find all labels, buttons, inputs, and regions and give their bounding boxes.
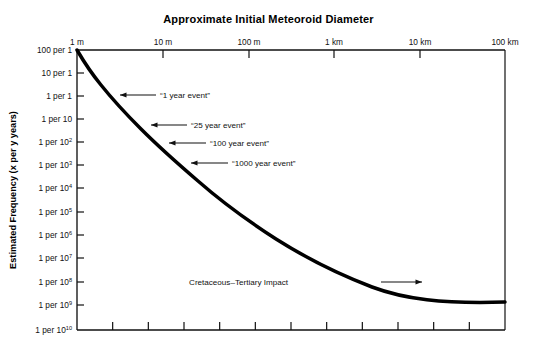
y-tick-label: 1 per 103	[38, 160, 72, 170]
x-tick-label-100-km: 100 km	[491, 37, 518, 47]
y-tick-label: 1 per 109	[38, 300, 72, 310]
axis-frame	[77, 50, 505, 330]
y-tick-label: 100 per 1	[37, 45, 72, 55]
y-tick-label: 1 per 108	[38, 277, 72, 287]
y-tick-label: 1 per 107	[38, 253, 72, 263]
x-axis-ticks: 1 m10 m100 m1 km10 km100 km	[70, 37, 519, 58]
annotation-label: “1000 year event”	[232, 159, 296, 168]
annotation-arrow-head	[169, 140, 176, 145]
x-axis-minor-ticks	[113, 322, 470, 330]
x-tick-label-10-km: 10 km	[409, 37, 432, 47]
annotation-arrow-head	[416, 279, 423, 284]
annotation-arrow-head	[191, 160, 198, 165]
chart-plot-area: 1 m10 m100 m1 km10 km100 km 100 per 110 …	[0, 0, 537, 354]
y-tick-label: 1 per 104	[38, 183, 72, 193]
x-tick-label-1-m: 1 m	[70, 37, 84, 47]
y-tick-label: 1 per 102	[38, 137, 72, 147]
annotation-label: “100 year event”	[210, 139, 269, 148]
x-tick-label-1-km: 1 km	[325, 37, 343, 47]
y-tick-label: 1 per 105	[38, 207, 72, 217]
annotation-label: Cretaceous–Tertiary Impact	[189, 278, 289, 287]
annotation-label: “25 year event”	[191, 121, 246, 130]
y-tick-label: 1 per 10	[42, 114, 73, 124]
annotation-label: “1 year event”	[160, 91, 210, 100]
frequency-curve	[77, 50, 505, 302]
chart-figure: Approximate Initial Meteoroid Diameter 1…	[0, 0, 537, 354]
annotation-arrow-head	[151, 122, 158, 127]
annotation-arrow-head	[120, 92, 127, 97]
y-axis-title: Estimated Frequency (x per y years)	[8, 111, 18, 269]
y-tick-label: 1 per 1	[46, 91, 72, 101]
y-tick-label: 1 per 106	[38, 230, 72, 240]
x-tick-label-10-m: 10 m	[154, 37, 173, 47]
x-tick-label-100-m: 100 m	[237, 37, 260, 47]
chart-annotations: “1 year event”“25 year event”“100 year e…	[120, 91, 422, 287]
y-tick-label: 10 per 1	[42, 68, 73, 78]
y-tick-label: 1 per 1010	[35, 325, 72, 335]
